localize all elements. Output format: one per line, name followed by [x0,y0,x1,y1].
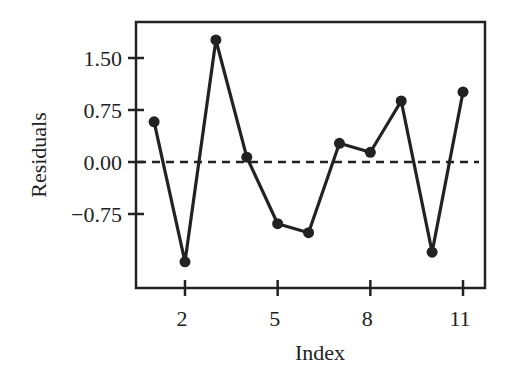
data-point-marker [149,116,160,127]
data-point-marker [427,247,438,258]
data-point-marker [365,147,376,158]
residual-markers [149,34,469,267]
y-tick-label: 1.50 [84,46,123,71]
y-tick-label: 0.00 [84,150,123,175]
y-tick-label: 0.75 [84,98,123,123]
y-tick-label: −0.75 [71,202,122,227]
x-tick-label: 8 [362,306,373,331]
data-point-marker [180,256,191,267]
chart-canvas: −0.750.000.751.50 25811 Index Residuals [0,0,511,379]
data-point-marker [334,138,345,149]
x-axis-label: Index [295,340,345,365]
y-axis-ticks: −0.750.000.751.50 [71,46,144,227]
data-point-marker [458,86,469,97]
x-tick-label: 11 [449,306,470,331]
x-tick-label: 2 [177,306,188,331]
data-point-marker [272,218,283,229]
y-axis-label: Residuals [26,112,51,198]
x-tick-label: 5 [269,306,280,331]
data-point-marker [396,95,407,106]
data-point-marker [241,152,252,163]
residuals-chart: −0.750.000.751.50 25811 Index Residuals [0,0,511,379]
data-point-marker [210,34,221,45]
data-point-marker [303,227,314,238]
